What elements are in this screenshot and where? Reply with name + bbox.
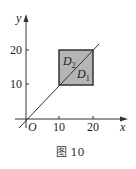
y-tick-label-20: 20 <box>10 43 22 57</box>
y-tick-label-10: 10 <box>10 77 22 91</box>
y-axis-label: y <box>15 11 22 25</box>
x-tick-label-10: 10 <box>53 120 65 134</box>
x-tick-label-20: 20 <box>87 120 99 134</box>
y-axis-arrow-icon <box>24 14 29 22</box>
diagram: y x O 10 20 10 20 D2 D1 图 10 <box>0 0 136 169</box>
figure-caption: 图 10 <box>56 146 85 159</box>
x-axis-label: x <box>119 120 126 134</box>
origin-label: O <box>28 120 37 134</box>
